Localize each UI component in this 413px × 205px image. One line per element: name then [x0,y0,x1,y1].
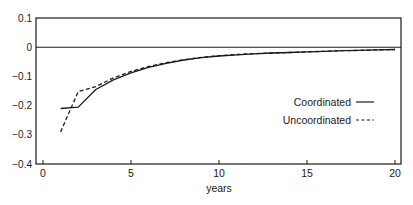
y-tick-label: −0.2 [12,100,32,111]
legend-label-uncoordinated: Uncoordinated [283,114,351,126]
legend: Coordinated Uncoordinated [283,96,374,126]
y-tick-label: 0 [26,42,32,53]
legend-label-coordinated: Coordinated [294,96,351,108]
x-axis: 05101520 [40,160,401,179]
y-tick-label: −0.3 [12,129,32,140]
x-axis-label: years [206,182,232,194]
x-tick-label: 10 [213,167,225,179]
plot-frame [36,18,401,164]
y-tick-label: 0.1 [18,13,32,24]
chart: 0.10−0.1−0.2−0.3−0.4 05101520 Coordinate… [0,0,413,205]
y-axis: 0.10−0.1−0.2−0.3−0.4 [12,13,32,170]
y-tick-label: −0.1 [12,71,32,82]
x-tick-label: 15 [301,167,313,179]
x-tick-label: 5 [128,167,134,179]
y-tick-label: −0.4 [12,159,32,170]
x-tick-label: 0 [40,167,46,179]
plot-border [36,18,401,164]
x-tick-label: 20 [389,167,401,179]
